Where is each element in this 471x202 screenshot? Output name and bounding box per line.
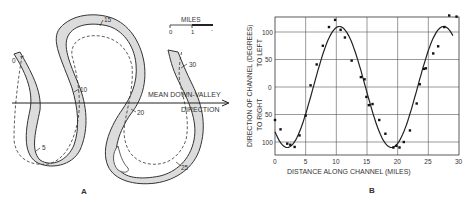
- y-tick-label: 0: [268, 84, 272, 91]
- data-point: [304, 114, 306, 116]
- arrow-label-line2: DIRECTION: [181, 106, 220, 113]
- x-tick-label: 10: [332, 158, 340, 165]
- data-point: [409, 129, 411, 131]
- mile-marker-20: 20: [137, 109, 145, 116]
- data-point: [293, 146, 295, 148]
- panel-a-map: MEAN DOWN-VALLEY DIRECTION 0 5 10 15 20 …: [12, 15, 229, 196]
- data-point: [360, 76, 362, 78]
- x-tick-labels: 051015202530: [273, 158, 463, 165]
- x-tick-label: 15: [363, 158, 371, 165]
- data-point: [350, 59, 352, 61]
- data-point: [274, 119, 276, 121]
- data-point: [395, 145, 397, 147]
- data-point: [322, 45, 324, 47]
- data-point: [289, 144, 291, 146]
- data-point: [365, 96, 367, 98]
- data-point: [286, 142, 288, 144]
- mile-marker-25: 25: [181, 164, 189, 171]
- data-point: [455, 15, 457, 17]
- mile-marker-10: 10: [80, 86, 88, 93]
- data-point: [384, 133, 386, 135]
- channel-belt: [14, 15, 203, 184]
- scale-tick-end: -: [211, 27, 213, 33]
- panel-b-label: B: [369, 186, 375, 195]
- scale-tick-1: 1: [191, 29, 195, 35]
- arrow-label-line1: MEAN DOWN-VALLEY: [148, 91, 221, 98]
- data-point: [392, 146, 394, 148]
- data-point: [448, 14, 450, 16]
- x-axis-label: DISTANCE ALONG CHANNEL (MILES): [287, 168, 411, 176]
- y-tick-label: 50: [265, 111, 273, 118]
- data-point: [334, 19, 336, 21]
- scale-title: MILES: [181, 16, 201, 23]
- data-point: [432, 52, 434, 54]
- data-point: [279, 128, 281, 130]
- x-tick-label: 30: [455, 158, 463, 165]
- scale-tick-0: 0: [169, 29, 173, 35]
- data-point: [371, 103, 373, 105]
- data-point: [425, 67, 427, 69]
- data-point: [316, 63, 318, 65]
- data-point: [403, 141, 405, 143]
- y-axis-label-to-right: TO RIGHT: [256, 99, 263, 131]
- scale-bar: MILES 0 1 -: [169, 16, 213, 35]
- data-point: [398, 146, 400, 148]
- mile-marker-5: 5: [42, 144, 46, 151]
- data-point: [443, 26, 445, 28]
- x-tick-label: 0: [273, 158, 277, 165]
- y-tick-label: 50: [265, 56, 273, 63]
- data-point: [328, 26, 330, 28]
- data-point: [344, 36, 346, 38]
- chart-grid: [275, 17, 459, 155]
- y-tick-label: 100: [262, 29, 273, 36]
- y-axis-label: DIRECTION OF CHANNEL (DEGREES): [246, 25, 254, 147]
- data-point: [419, 83, 421, 85]
- x-tick-label: 20: [394, 158, 402, 165]
- panel-a-label: A: [81, 187, 87, 196]
- y-axis-label-to-left: TO LEFT: [256, 39, 263, 67]
- mile-marker-30: 30: [189, 61, 197, 68]
- data-point: [378, 119, 380, 121]
- data-point: [309, 84, 311, 86]
- figure-root: MEAN DOWN-VALLEY DIRECTION 0 5 10 15 20 …: [0, 0, 471, 202]
- data-point: [368, 104, 370, 106]
- data-point: [298, 134, 300, 136]
- mile-marker-0: 0: [12, 57, 16, 64]
- data-point: [437, 45, 439, 47]
- panel-b-chart: 051015202530 10050050100 DISTANCE ALONG …: [246, 14, 463, 195]
- data-point: [415, 102, 417, 104]
- mile-marker-15: 15: [104, 16, 112, 23]
- x-tick-label: 25: [424, 158, 432, 165]
- y-tick-label: 100: [262, 139, 273, 146]
- data-point: [339, 29, 341, 31]
- data-point: [363, 78, 365, 80]
- x-tick-label: 5: [304, 158, 308, 165]
- y-tick-labels: 10050050100: [262, 29, 273, 146]
